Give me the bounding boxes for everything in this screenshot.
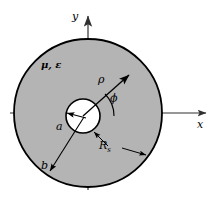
y-axis-label: y xyxy=(72,11,78,22)
figure-canvas xyxy=(0,0,217,197)
surface-resistance-subscript: s xyxy=(107,146,111,154)
medium-parameters-label: μ, ε xyxy=(41,60,61,70)
outer-radius-label: b xyxy=(41,160,48,171)
inner-radius-label: a xyxy=(56,121,63,132)
x-axis-label: x xyxy=(197,119,203,130)
phi-label: ϕ xyxy=(110,93,118,104)
cylindrical-cross-section-figure: y x μ, ε ρ ϕ a b Rs xyxy=(0,0,217,197)
surface-resistance-label: Rs xyxy=(99,140,111,154)
rho-label: ρ xyxy=(98,74,104,85)
